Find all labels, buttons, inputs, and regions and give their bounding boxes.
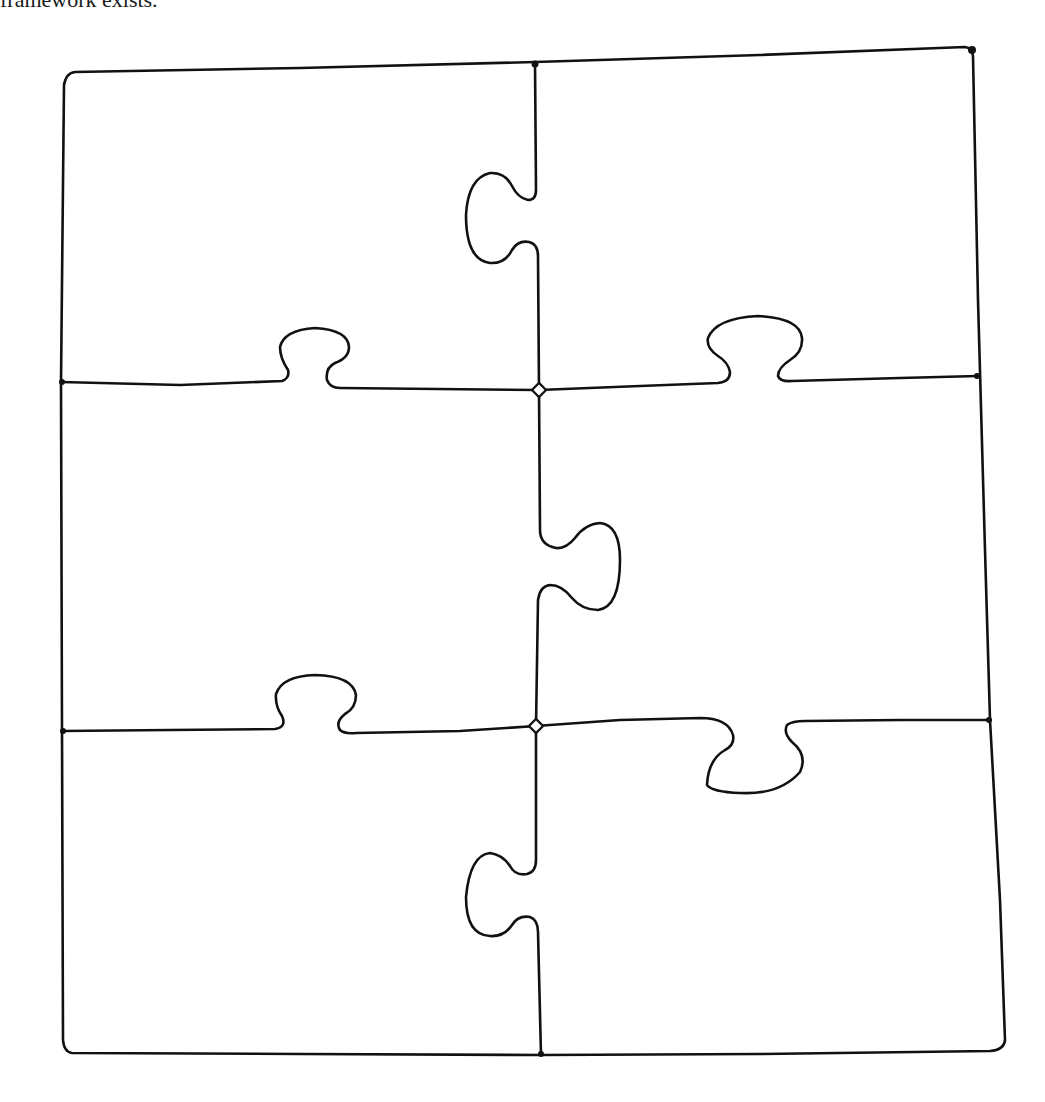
junction-dot-right-upper	[974, 373, 980, 379]
junction-node-upper	[532, 383, 546, 397]
divider-vertical-middle	[536, 390, 620, 726]
jigsaw-puzzle-diagram	[0, 0, 1045, 1102]
divider-vertical-top	[466, 62, 539, 390]
divider-horizontal-lower-left	[62, 675, 536, 733]
divider-vertical-bottom	[466, 726, 541, 1055]
junction-dot-left-lower	[60, 728, 66, 734]
corner-dot-top-right	[968, 46, 976, 54]
junction-dot-left-upper	[59, 379, 65, 385]
divider-horizontal-lower-right	[536, 718, 990, 793]
junction-dot-top	[532, 61, 539, 68]
junction-dot-bottom	[538, 1051, 544, 1057]
junction-node-lower	[529, 719, 543, 733]
junction-dot-right-lower	[986, 717, 992, 723]
divider-horizontal-upper-left	[61, 328, 539, 390]
divider-horizontal-upper-right	[539, 316, 978, 390]
